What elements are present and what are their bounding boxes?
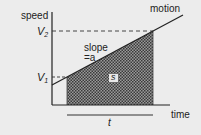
v1-label: V1 <box>37 72 48 86</box>
slope-label-line2: =a <box>84 53 95 63</box>
v2-label: V2 <box>37 26 48 40</box>
x-axis-label: time <box>171 110 190 120</box>
interval-label: t <box>108 118 111 128</box>
area-label: s <box>111 72 116 82</box>
y-axis-label: speed <box>21 11 48 21</box>
distance-area <box>67 31 153 105</box>
line-label: motion <box>150 4 180 14</box>
